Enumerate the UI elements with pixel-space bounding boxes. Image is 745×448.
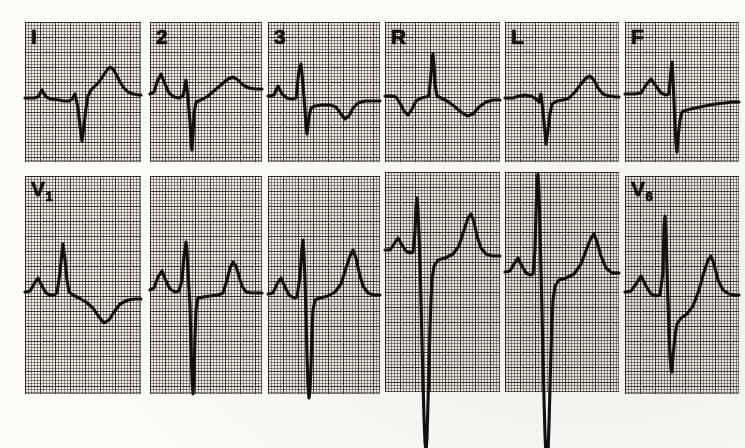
ecg-waveform-lead-1 bbox=[25, 22, 141, 162]
waveform-path bbox=[268, 240, 380, 398]
lead-label-text: V bbox=[631, 177, 646, 200]
lead-label-subscript: 1 bbox=[46, 189, 54, 204]
ecg-panel-lead-L: L bbox=[505, 22, 619, 162]
ecg-panel-lead-V1: V1 bbox=[25, 176, 141, 394]
ecg-panel-lead-2: 2 bbox=[150, 22, 262, 162]
waveform-path bbox=[268, 64, 380, 134]
lead-label-lead-L: L bbox=[511, 26, 524, 47]
ecg-panel-lead-V2 bbox=[150, 176, 262, 394]
lead-label-text: R bbox=[391, 25, 407, 48]
lead-label-lead-1: I bbox=[31, 26, 37, 47]
lead-label-lead-V6: V6 bbox=[631, 178, 653, 203]
lead-label-text: 3 bbox=[274, 25, 286, 48]
ecg-waveform-lead-V5 bbox=[505, 172, 619, 392]
lead-label-text: F bbox=[631, 25, 644, 48]
lead-label-subscript: 6 bbox=[646, 189, 654, 204]
ecg-panel-lead-V3 bbox=[268, 176, 380, 394]
lead-label-lead-V1: V1 bbox=[31, 178, 53, 203]
lead-label-text: 2 bbox=[156, 25, 168, 48]
ecg-sheet: I23RLFV1V6 bbox=[0, 0, 745, 448]
waveform-path bbox=[505, 174, 619, 448]
lead-label-text: I bbox=[31, 25, 37, 48]
waveform-path bbox=[150, 242, 262, 394]
waveform-path bbox=[385, 198, 500, 448]
waveform-path bbox=[625, 216, 739, 372]
waveform-path bbox=[150, 74, 262, 150]
waveform-path bbox=[25, 244, 141, 323]
lead-label-text: L bbox=[511, 25, 524, 48]
lead-label-text: V bbox=[31, 177, 46, 200]
waveform-path bbox=[505, 76, 619, 144]
lead-label-lead-3: 3 bbox=[274, 26, 286, 47]
ecg-panel-lead-F: F bbox=[625, 22, 739, 162]
waveform-path bbox=[625, 62, 739, 152]
ecg-panel-lead-3: 3 bbox=[268, 22, 380, 162]
lead-label-lead-F: F bbox=[631, 26, 644, 47]
ecg-panel-lead-R: R bbox=[385, 22, 500, 162]
lead-label-lead-R: R bbox=[391, 26, 407, 47]
waveform-path bbox=[385, 54, 500, 116]
ecg-panel-lead-V5 bbox=[505, 172, 619, 392]
lead-label-lead-2: 2 bbox=[156, 26, 168, 47]
ecg-waveform-lead-V2 bbox=[150, 176, 262, 394]
waveform-path bbox=[25, 67, 141, 141]
ecg-panel-lead-V6: V6 bbox=[625, 176, 739, 394]
ecg-waveform-lead-V6 bbox=[625, 176, 739, 394]
ecg-waveform-lead-V3 bbox=[268, 176, 380, 394]
ecg-waveform-lead-V1 bbox=[25, 176, 141, 394]
ecg-panel-lead-1: I bbox=[25, 22, 141, 162]
ecg-panel-lead-V4 bbox=[385, 172, 500, 392]
ecg-waveform-lead-V4 bbox=[385, 172, 500, 392]
